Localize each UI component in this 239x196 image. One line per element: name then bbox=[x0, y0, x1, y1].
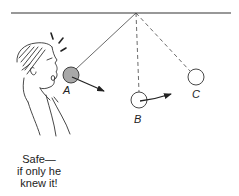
caption-line-1: Safe— bbox=[8, 153, 70, 165]
label-b: B bbox=[134, 114, 141, 125]
string-c bbox=[136, 13, 190, 71]
caption: Safe— if only he knew it! bbox=[8, 153, 70, 189]
shock-marks-icon bbox=[51, 33, 66, 51]
caption-line-2: if only he bbox=[8, 165, 70, 177]
pendulum-ball-c bbox=[188, 69, 204, 85]
string-a bbox=[76, 13, 136, 69]
label-c: C bbox=[192, 89, 200, 100]
label-a: A bbox=[63, 85, 70, 96]
string-b bbox=[136, 13, 139, 92]
pendulum-ball-a bbox=[63, 67, 79, 83]
caption-line-3: knew it! bbox=[8, 177, 70, 189]
velocity-arrow-a bbox=[72, 77, 104, 91]
